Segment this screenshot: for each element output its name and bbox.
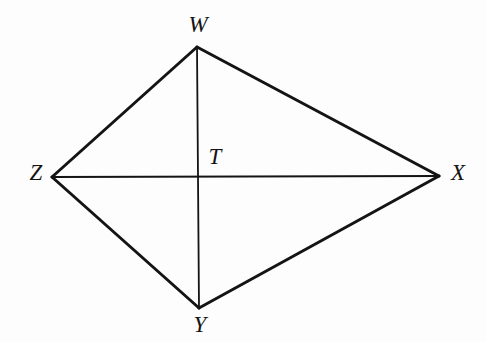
vertex-label-z: Z	[30, 161, 43, 184]
vertex-label-t: T	[209, 145, 222, 168]
diagonal-wy	[197, 47, 199, 308]
vertex-label-w: W	[188, 13, 207, 36]
vertex-label-y: Y	[194, 313, 207, 336]
figure-canvas: W X Y Z T	[0, 0, 486, 342]
edge-zw	[52, 47, 197, 177]
edge-yz	[52, 177, 199, 308]
vertex-label-x: X	[451, 161, 465, 184]
diagonal-zx	[52, 176, 439, 177]
geometry-figure	[0, 0, 486, 342]
edge-wx	[197, 47, 439, 176]
edge-xy	[199, 176, 439, 308]
